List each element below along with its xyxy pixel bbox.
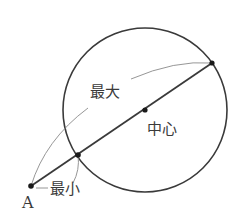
line-through-center	[31, 63, 212, 186]
max-label: 最大	[90, 83, 120, 101]
center-dot	[142, 107, 147, 112]
near-point-dot	[75, 152, 81, 158]
center-label: 中心	[147, 120, 177, 138]
far-point-dot	[209, 60, 214, 65]
min-arc	[73, 155, 78, 183]
min-label: 最小	[50, 180, 80, 198]
max-arc-lower	[31, 108, 88, 186]
point-a-dot	[28, 183, 34, 189]
diagram-canvas: 最大 中心 最小 A	[0, 0, 245, 221]
point-a-label: A	[21, 193, 34, 212]
